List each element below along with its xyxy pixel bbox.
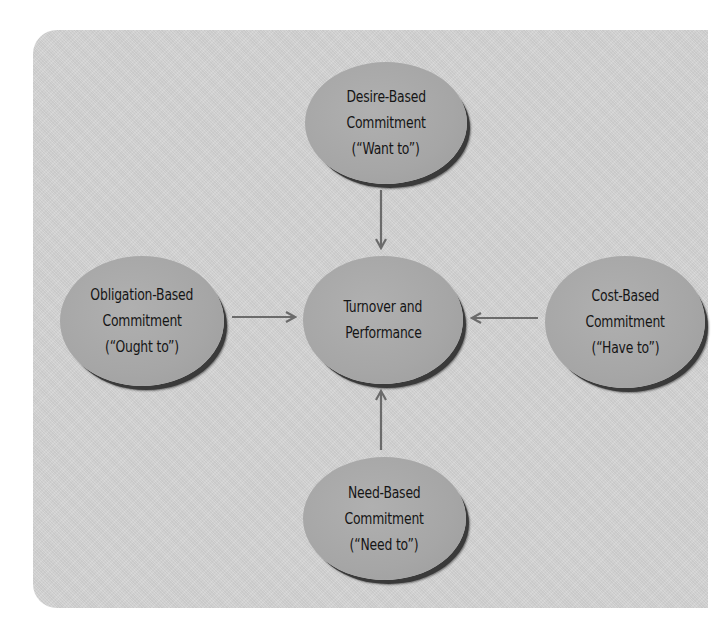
node-label-line: Commitment (102, 308, 181, 334)
node-label-line: Commitment (345, 506, 424, 532)
obligation-based-commitment-node: Obligation-Based Commitment (“Ought to”) (60, 256, 224, 386)
node-label-line: (“Have to”) (591, 335, 659, 361)
node-label-line: Cost-Based (591, 283, 659, 309)
node-label-line: Performance (345, 320, 421, 346)
node-label-line: (“Need to”) (350, 532, 419, 558)
node-label-line: Need-Based (348, 480, 421, 506)
node-label-line: (“Ought to”) (105, 334, 179, 360)
cost-based-commitment-node: Cost-Based Commitment (“Have to”) (545, 256, 705, 388)
node-label-line: Desire-Based (346, 84, 425, 110)
node-label-line: Turnover and (344, 294, 423, 320)
node-label-line: Commitment (585, 309, 664, 335)
node-label-line: Obligation-Based (91, 282, 194, 308)
node-label-line: (“Want to”) (352, 136, 420, 162)
turnover-and-performance-node: Turnover and Performance (303, 256, 463, 384)
need-based-commitment-node: Need-Based Commitment (“Need to”) (303, 457, 466, 580)
node-label-line: Commitment (346, 110, 425, 136)
diagram-canvas: Desire-Based Commitment (“Want to”) Obli… (0, 0, 726, 624)
desire-based-commitment-node: Desire-Based Commitment (“Want to”) (305, 62, 467, 184)
